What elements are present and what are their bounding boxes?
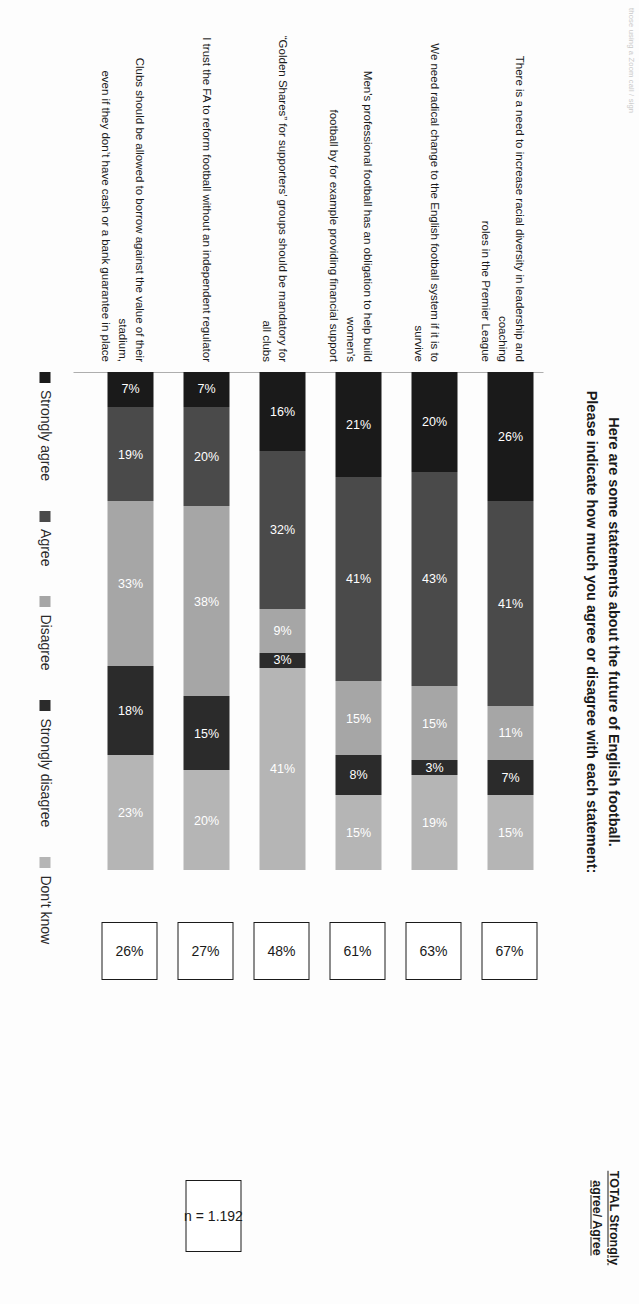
bar-segment: 15% (183, 696, 229, 771)
bar-segment: 20% (411, 372, 457, 472)
statement-label: There is a need to increase racial diver… (477, 32, 527, 362)
bar-segment: 19% (107, 407, 153, 502)
legend-label: Agree (37, 529, 53, 566)
bar-row: 20%43%15%3%19%We need radical change to … (411, 372, 457, 870)
bar-segment-value: 38% (193, 594, 218, 608)
legend-swatch-icon (40, 857, 51, 868)
bar-segment: 23% (107, 755, 153, 870)
legend-item: Strongly agree (37, 372, 53, 481)
bar-segment: 20% (183, 770, 229, 870)
total-agree-value: 27% (191, 943, 219, 959)
bar-segment: 3% (259, 653, 305, 668)
bar-segment-value: 20% (421, 415, 446, 429)
bar-segment-value: 15% (193, 726, 218, 740)
bar-segment-value: 3% (425, 761, 443, 775)
statement-label-line: “Golden Shares” for supporters’ groups s… (257, 32, 290, 362)
bar-segment: 43% (411, 472, 457, 686)
bar-segment: 33% (107, 501, 153, 665)
bar-segment-value: 15% (421, 716, 446, 730)
bar-segment: 7% (487, 760, 533, 795)
chart-legend: Strongly agreeAgreeDisagreeStrongly disa… (37, 372, 53, 1072)
statement-label: I trust the FA to reform football withou… (198, 32, 215, 362)
bar-row: 7%19%33%18%23%Clubs should be allowed to… (107, 372, 153, 870)
total-agree-box: 61% (329, 922, 385, 980)
corner-note: those using a Zoom call / sign (626, 8, 635, 113)
bar-segment: 15% (411, 686, 457, 761)
total-agree-value: 26% (115, 943, 143, 959)
bar-segment-value: 33% (117, 577, 142, 591)
legend-label: Strongly disagree (37, 718, 53, 827)
legend-label: Strongly agree (37, 390, 53, 481)
total-agree-value: 63% (419, 943, 447, 959)
total-header-line-2: agree/ Agree (587, 1162, 604, 1274)
legend-label: Disagree (37, 614, 53, 670)
bar-segment-value: 41% (345, 572, 370, 586)
bar-segment-value: 18% (117, 704, 142, 718)
legend-item: Don't know (37, 857, 53, 944)
total-agree-value: 48% (267, 943, 295, 959)
bar-segment: 18% (107, 666, 153, 756)
bar-segment-value: 20% (193, 450, 218, 464)
total-agree-box: 63% (405, 922, 461, 980)
total-agree-box: 26% (101, 922, 157, 980)
bar-row: 21%41%15%8%15%Men's professional footbal… (335, 372, 381, 870)
legend-item: Strongly disagree (37, 700, 53, 827)
bar-segment-value: 15% (345, 711, 370, 725)
bar-segment: 16% (259, 372, 305, 451)
statement-label: “Golden Shares” for supporters’ groups s… (257, 32, 290, 362)
stacked-bar-chart: 26%41%11%7%15%There is a need to increas… (73, 372, 543, 870)
total-agree-box: 67% (481, 922, 537, 980)
bar-row: 26%41%11%7%15%There is a need to increas… (487, 372, 533, 870)
bar-segment: 15% (335, 681, 381, 756)
bar-segment: 19% (411, 775, 457, 870)
legend-swatch-icon (40, 511, 51, 522)
bar-row: 7%20%38%15%20%I trust the FA to reform f… (183, 372, 229, 870)
statement-label-line: Men's professional football has an oblig… (341, 32, 374, 362)
bar-segment: 41% (335, 477, 381, 681)
statement-label: Men's professional football has an oblig… (325, 32, 375, 362)
bar-segment: 21% (335, 372, 381, 477)
total-column-header: TOTAL Strongly agree/ Agree (587, 1162, 621, 1274)
legend-item: Agree (37, 511, 53, 566)
bar-segment-value: 7% (121, 382, 139, 396)
bar-segment-value: 41% (497, 597, 522, 611)
statement-label-line: There is a need to increase racial diver… (493, 32, 526, 362)
page-title-line-2: Please indicate how much you agree or di… (580, 372, 602, 892)
bar-segment-value: 16% (269, 404, 294, 418)
bar-segment: 7% (183, 372, 229, 407)
bar-segment: 26% (487, 372, 533, 501)
bar-segment: 32% (259, 451, 305, 609)
statement-label: Clubs should be allowed to borrow agains… (97, 32, 147, 362)
legend-swatch-icon (40, 700, 51, 711)
bar-segment: 41% (259, 668, 305, 870)
statement-label-line: even if they don’t have cash or a bank g… (97, 32, 114, 362)
bar-segment: 8% (335, 755, 381, 795)
bar-segment-value: 7% (501, 771, 519, 785)
bar-segment-value: 8% (349, 768, 367, 782)
statement-label-line: football by for example providing financ… (325, 32, 342, 362)
bar-segment-value: 3% (273, 653, 291, 667)
bar-segment-value: 21% (345, 417, 370, 431)
bar-segment-value: 19% (117, 447, 142, 461)
legend-swatch-icon (40, 596, 51, 607)
total-agree-box: 27% (177, 922, 233, 980)
bar-segment-value: 7% (197, 382, 215, 396)
statement-label-line: I trust the FA to reform football withou… (198, 32, 215, 362)
legend-item: Disagree (37, 596, 53, 670)
bar-segment: 3% (411, 760, 457, 775)
bar-segment: 15% (487, 795, 533, 870)
bar-segment: 38% (183, 506, 229, 695)
bar-row: 16%32%9%3%41%“Golden Shares” for support… (259, 372, 305, 870)
total-header-line-1: TOTAL Strongly (604, 1162, 621, 1274)
bar-segment: 11% (487, 706, 533, 761)
bar-segment: 9% (259, 609, 305, 653)
bar-segment: 15% (335, 795, 381, 870)
statement-label-line: roles in the Premier League (477, 32, 494, 362)
bar-segment: 7% (107, 372, 153, 407)
bar-segment-value: 23% (117, 806, 142, 820)
page-title-line-1: Here are some statements about the futur… (601, 372, 623, 892)
bar-segment-value: 9% (273, 624, 291, 638)
total-agree-value: 61% (343, 943, 371, 959)
bar-segment-value: 26% (497, 430, 522, 444)
page-title: Here are some statements about the futur… (580, 372, 624, 892)
